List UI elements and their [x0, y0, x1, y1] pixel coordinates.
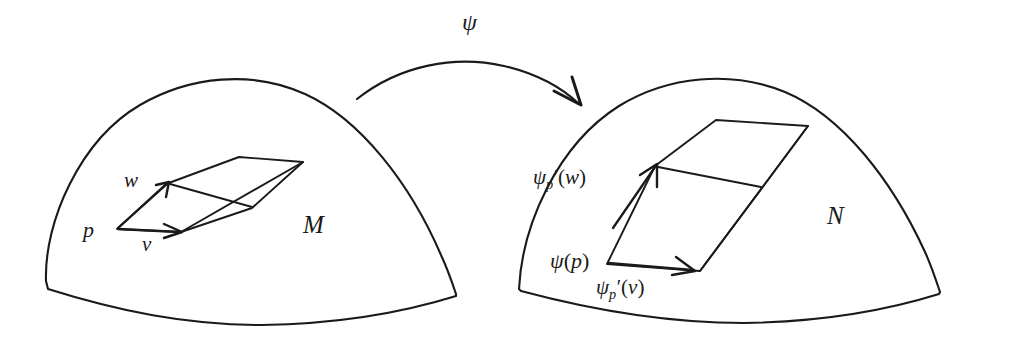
tangent-parallelogram-n — [607, 120, 808, 271]
pushforward-v-label: ψp′(v) — [596, 277, 644, 301]
pushforward-w-shaft — [613, 167, 655, 228]
image-point-open-paren: ( — [564, 248, 571, 273]
tangent-fold-line-n — [658, 167, 761, 187]
pushforward-w-open-paren: ( — [558, 165, 565, 189]
pushforward-v-open-paren: ( — [621, 275, 628, 299]
image-point-close-paren: ) — [582, 248, 589, 273]
target-manifold-label: N — [827, 203, 844, 228]
pushforward-w-arg: w — [565, 165, 579, 189]
pushforward-v-arg: v — [628, 275, 637, 299]
manifold-map-diagram: M p v w N ψ ψ(p) ψp′(w) ψp′(v) — [0, 0, 1024, 345]
vector-w-label: w — [124, 170, 138, 191]
pushforward-w-close-paren: ) — [579, 165, 586, 189]
psi-map-arrow — [357, 62, 581, 105]
diagram-canvas — [0, 0, 1024, 345]
tangent-plane-m — [117, 157, 303, 232]
manifold-n-outline — [519, 79, 940, 323]
pushforward-v-psi: ψ — [596, 275, 609, 299]
image-point-psi: ψ — [550, 248, 564, 273]
pushforward-v-shaft — [608, 263, 692, 270]
tangent-edge-n-right — [700, 126, 808, 271]
manifold-m-outline — [46, 79, 456, 325]
pushforward-v-arrowhead — [672, 257, 695, 275]
vector-v-label: v — [142, 234, 151, 255]
image-point-label: ψ(p) — [550, 250, 589, 272]
pushforward-w-psi: ψ — [533, 165, 546, 189]
source-manifold-shape — [46, 79, 456, 325]
target-manifold-shape — [519, 79, 940, 323]
psi-map-label: ψ — [462, 10, 477, 34]
base-point-label-p: p — [83, 219, 94, 241]
pushforward-v-close-paren: ) — [637, 275, 644, 299]
source-manifold-label: M — [303, 212, 324, 237]
tangent-plane-n — [607, 120, 808, 271]
pushforward-w-vector — [613, 164, 657, 228]
psi-arc-shaft — [357, 62, 579, 104]
pushforward-w-label: ψp′(w) — [533, 167, 586, 191]
tangent-fold-line-m — [170, 184, 252, 207]
image-point-arg: p — [571, 248, 582, 273]
